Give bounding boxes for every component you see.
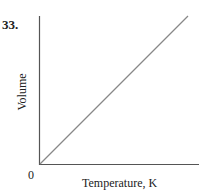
- data-line: [40, 16, 188, 164]
- chart-plot-area: [0, 0, 210, 196]
- y-axis-label: Volume: [15, 73, 30, 110]
- origin-label: 0: [28, 168, 34, 183]
- x-axis-label: Temperature, K: [82, 176, 157, 191]
